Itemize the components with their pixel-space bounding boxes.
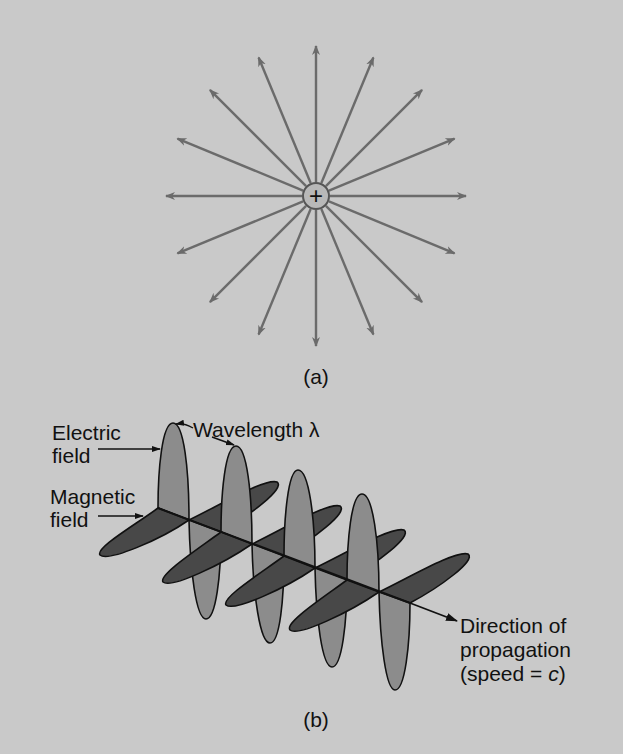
electric-lobe-down-4 xyxy=(379,592,410,690)
caption-a: (a) xyxy=(303,365,329,388)
label-magnetic-field: field xyxy=(50,508,89,531)
label-electric: Electric xyxy=(52,421,121,444)
label-speed-suffix: ) xyxy=(559,662,566,685)
electric-lobe-up-4 xyxy=(347,494,379,592)
label-propagation: propagation xyxy=(460,638,571,661)
electric-lobe-up-3 xyxy=(284,470,315,568)
plus-sign-icon: + xyxy=(309,182,323,209)
panel-b-labels: Electric field Magnetic field Wavelength… xyxy=(50,418,571,731)
label-magnetic: Magnetic xyxy=(50,485,135,508)
label-wavelength: Wavelength λ xyxy=(193,418,320,441)
panel-b-electromagnetic-wave xyxy=(100,423,470,690)
electric-lobe-up-2 xyxy=(221,446,252,544)
label-direction: Direction of xyxy=(460,614,566,637)
label-speed: (speed = c) xyxy=(460,662,566,685)
propagation-arrow xyxy=(410,603,457,621)
label-speed-prefix: (speed = xyxy=(460,662,548,685)
panel-a-electric-field-of-point-charge: + (a) xyxy=(166,46,466,388)
em-wave-figure: + (a) Electric xyxy=(0,0,623,754)
label-electric-field: field xyxy=(52,444,91,467)
electric-lobe-up-1 xyxy=(158,423,189,520)
caption-b: (b) xyxy=(303,708,329,731)
label-speed-c: c xyxy=(548,662,559,685)
